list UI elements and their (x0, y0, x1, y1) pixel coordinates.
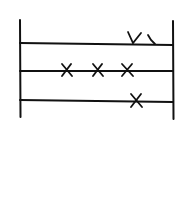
diagram-canvas (0, 0, 180, 206)
grid-diagram (0, 0, 180, 206)
tick-mark-icon (148, 35, 155, 44)
left-rail (20, 20, 21, 117)
row-3-line (20, 100, 173, 102)
right-rail (173, 21, 174, 119)
row-1-line (20, 43, 173, 45)
check-mark-icon (128, 32, 141, 43)
